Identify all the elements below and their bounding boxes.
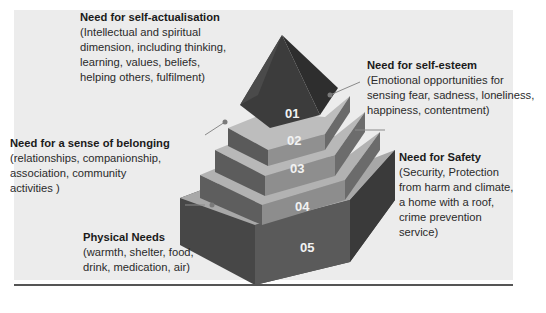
label-belonging: Need for a sense of belonging (relations… (10, 136, 170, 196)
tier-number-02: 02 (287, 133, 301, 148)
label-line: learning, values, beliefs, (80, 55, 226, 70)
bottom-rule (14, 284, 513, 286)
label-title: Need for a sense of belonging (10, 136, 170, 151)
label-self-esteem: Need for self-esteem (Emotional opportun… (367, 58, 534, 118)
label-physical-needs: Physical Needs (warmth, shelter, food, d… (83, 230, 194, 275)
label-line: (relationships, companionship, (10, 151, 170, 166)
label-line: (Intellectual and spiritual (80, 25, 226, 40)
tier-number-01: 01 (285, 106, 299, 121)
label-line: helping others, fulfilment) (80, 70, 226, 85)
label-self-actualisation: Need for self-actualisation (Intellectua… (80, 10, 226, 85)
label-line: (Emotional opportunities for (367, 73, 534, 88)
label-line: association, community (10, 166, 170, 181)
label-line: drink, medication, air) (83, 260, 194, 275)
tier-number-04: 04 (295, 199, 310, 214)
tier-number-03: 03 (290, 161, 304, 176)
label-line: crime prevention (399, 210, 513, 225)
label-line: activities ) (10, 181, 170, 196)
label-line: (warmth, shelter, food, (83, 245, 194, 260)
label-title: Need for self-actualisation (80, 10, 226, 25)
label-line: sensing fear, sadness, loneliness, (367, 88, 534, 103)
label-line: from harm and climate, (399, 180, 513, 195)
label-line: (Security, Protection (399, 165, 513, 180)
label-title: Need for Safety (399, 150, 513, 165)
label-line: service) (399, 225, 513, 240)
label-safety: Need for Safety (Security, Protection fr… (399, 150, 513, 240)
label-title: Physical Needs (83, 230, 194, 245)
tier-number-05: 05 (300, 240, 314, 255)
label-line: dimension, including thinking, (80, 40, 226, 55)
label-line: a home with a roof, (399, 195, 513, 210)
label-title: Need for self-esteem (367, 58, 534, 73)
label-line: happiness, contentment) (367, 103, 534, 118)
